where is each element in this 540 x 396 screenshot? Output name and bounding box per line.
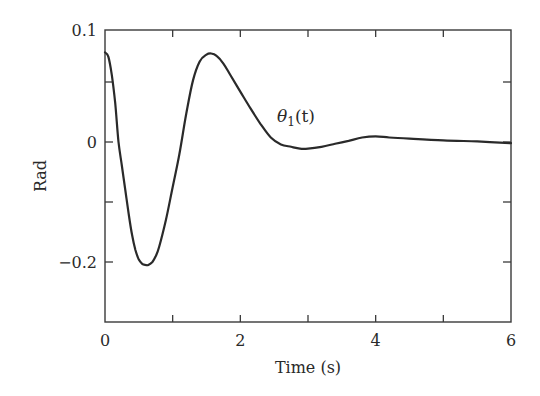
tick-labels: 02460.10−0.2 — [58, 21, 516, 350]
x-tick-label: 4 — [371, 331, 381, 350]
theta1-curve — [105, 52, 511, 265]
plot-border — [105, 30, 511, 322]
y-axis-label: Rad — [31, 160, 50, 192]
x-tick-label: 6 — [506, 331, 516, 350]
y-tick-label: 0.1 — [72, 21, 97, 40]
x-axis-label: Time (s) — [275, 358, 341, 377]
chart: 02460.10−0.2 θ1(t) Time (s) Rad — [0, 0, 540, 396]
theta1-label: θ1(t) — [277, 106, 315, 129]
y-tick-label: 0 — [87, 133, 97, 152]
x-tick-label: 2 — [235, 331, 245, 350]
x-tick-label: 0 — [100, 331, 110, 350]
y-tick-label: −0.2 — [58, 253, 97, 272]
axis-ticks — [105, 30, 511, 322]
plot-frame — [105, 30, 511, 322]
